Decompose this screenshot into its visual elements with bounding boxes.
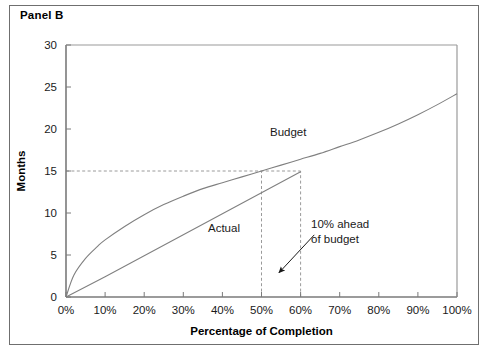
x-tick-label: 0%	[58, 304, 75, 316]
x-tick-label: 90%	[406, 304, 429, 316]
x-tick-label: 40%	[211, 304, 234, 316]
y-tick-label: 30	[44, 39, 57, 51]
figure-panel-b: Panel B 051015202530 0%10%20%30%40%50%60…	[0, 0, 490, 358]
x-tick-label: 50%	[250, 304, 273, 316]
x-tick-label: 30%	[172, 304, 195, 316]
x-tick-label: 20%	[133, 304, 156, 316]
y-tick-label: 25	[44, 81, 57, 93]
x-tick-label: 60%	[289, 304, 312, 316]
y-axis-ticks: 051015202530	[44, 39, 71, 303]
series-labels-group: BudgetActual	[208, 126, 307, 234]
x-tick-label: 100%	[442, 304, 471, 316]
x-tick-label: 10%	[94, 304, 117, 316]
y-tick-label: 10	[44, 207, 57, 219]
x-tick-label: 80%	[367, 304, 390, 316]
series-label-actual: Actual	[208, 222, 240, 234]
x-tick-label: 70%	[328, 304, 351, 316]
y-tick-label: 5	[51, 249, 57, 261]
chart-canvas: 051015202530 0%10%20%30%40%50%60%70%80%9…	[0, 0, 490, 358]
ahead-of-budget-note-line2: of budget	[311, 233, 360, 245]
series-label-budget: Budget	[270, 126, 307, 138]
y-tick-label: 15	[44, 165, 57, 177]
reference-lines-group	[66, 171, 301, 297]
ahead-of-budget-note-arrow	[279, 235, 314, 273]
x-axis-ticks: 0%10%20%30%40%50%60%70%80%90%100%	[58, 292, 472, 316]
x-axis-title: Percentage of Completion	[190, 325, 333, 337]
y-tick-label: 0	[51, 291, 57, 303]
series-line-actual	[66, 172, 301, 297]
ahead-of-budget-note-line1: 10% ahead	[311, 218, 369, 230]
y-tick-label: 20	[44, 123, 57, 135]
y-axis-title: Months	[15, 151, 27, 192]
annotation-group: 10% aheadof budget	[279, 218, 369, 273]
series-lines-group	[66, 94, 457, 297]
